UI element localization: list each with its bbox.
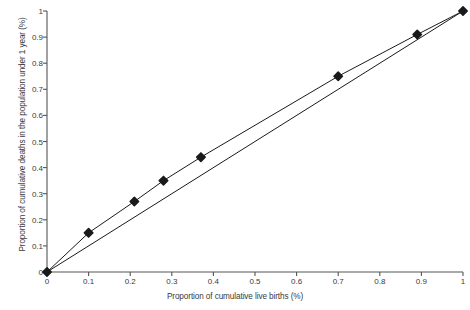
- data-point-marker: [197, 153, 205, 161]
- data-series: [43, 7, 467, 276]
- data-point-marker: [334, 72, 342, 80]
- data-point-marker: [159, 176, 167, 184]
- plot-area: [0, 0, 470, 310]
- data-point-marker: [130, 197, 138, 205]
- series-line: [47, 11, 463, 272]
- lorenz-curve-chart: Proportion of cumulative deaths in the p…: [0, 0, 470, 310]
